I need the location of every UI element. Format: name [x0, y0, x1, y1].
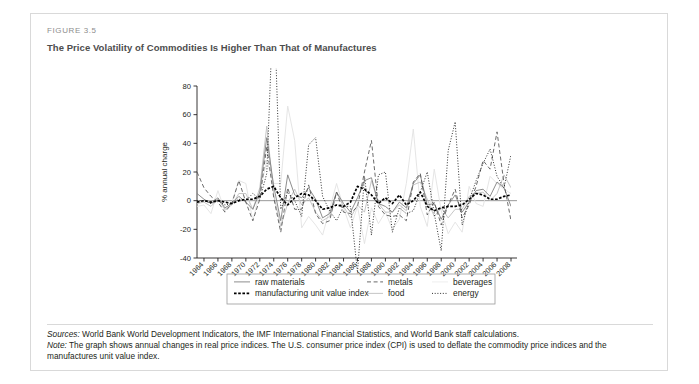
series-line	[197, 126, 511, 226]
chart-axes: 806040200-20-401964196619681970197219741…	[180, 82, 517, 278]
note-line: Note: The graph shows annual changes in …	[47, 340, 655, 362]
notes-divider	[47, 324, 653, 325]
sources-text: World Bank World Development Indicators,…	[80, 329, 519, 339]
sources-line: Sources: World Bank World Development In…	[47, 329, 655, 340]
y-axis-title: % annual charge	[160, 141, 169, 202]
y-tick-label: 60	[183, 110, 191, 119]
sources-label: Sources:	[47, 329, 80, 339]
legend-item-label: food	[388, 288, 405, 298]
legend-item-label: beverages	[453, 277, 492, 287]
y-tick-label: 80	[183, 82, 191, 91]
y-tick-label: 20	[183, 168, 191, 177]
legend-item-label: manufacturing unit value index	[255, 288, 369, 298]
y-tick-label: 0	[187, 196, 191, 205]
y-tick-label: 40	[183, 139, 191, 148]
y-tick-label: -20	[180, 225, 191, 234]
series-line	[197, 106, 511, 244]
series-line	[197, 62, 511, 272]
figure-title: The Price Volatility of Commodities Is H…	[47, 42, 377, 53]
figure-card: FIGURE 3.5 The Price Volatility of Commo…	[30, 13, 668, 371]
figure-notes: Sources: World Bank World Development In…	[47, 329, 655, 363]
y-tick-label: -40	[180, 254, 191, 263]
chart-plot-container: 806040200-20-401964196619681970197219741…	[31, 62, 669, 312]
series-line	[197, 186, 511, 210]
figure-number-label: FIGURE 3.5	[47, 26, 97, 35]
legend-item-label: energy	[453, 288, 479, 298]
note-text: The graph shows annual changes in real p…	[47, 340, 607, 361]
legend-item-label: raw materials	[255, 277, 305, 287]
series-line	[197, 138, 511, 221]
x-tick-label: 2008	[494, 260, 512, 278]
legend-item-label: metals	[388, 277, 413, 287]
note-label: Note:	[47, 340, 67, 350]
chart-series-group	[197, 62, 511, 272]
price-volatility-line-chart: 806040200-20-401964196619681970197219741…	[31, 62, 669, 312]
chart-legend: raw materialsmanufacturing unit value in…	[227, 274, 495, 304]
